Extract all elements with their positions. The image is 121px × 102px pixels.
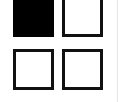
right-edge-divider [117,0,118,102]
grid-cell-bottom-left[interactable] [13,49,54,90]
grid-cell-bottom-right[interactable] [62,49,103,90]
grid-cell-top-left-filled[interactable] [13,0,54,37]
grid-cell-top-right[interactable] [62,0,103,37]
